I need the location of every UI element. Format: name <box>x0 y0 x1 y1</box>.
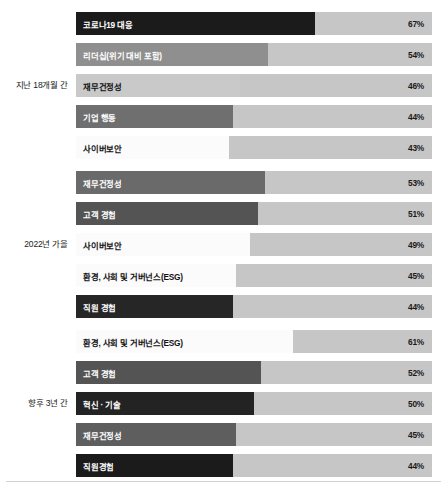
group-bars: 재무건정성53%고객 경험51%사이버보안49%환경, 사회 및 거버넌스(ES… <box>76 171 432 318</box>
bar-value-label: 45% <box>408 423 424 446</box>
bar-row[interactable]: 고객 경험51% <box>76 202 432 225</box>
bar-value-label: 52% <box>408 361 424 384</box>
bar-value-label: 44% <box>408 295 424 318</box>
bar-category-label: 직원경험 <box>83 454 114 477</box>
bar-category-label: 기업 행동 <box>83 105 116 128</box>
bar-category-label: 혁신 · 기술 <box>83 392 121 415</box>
group-bars: 환경, 사회 및 거버넌스(ESG)61%고객 경험52%혁신 · 기술50%재… <box>76 330 432 477</box>
bar-row[interactable]: 직원경험44% <box>76 454 432 477</box>
group-bars: 코로나19 대응67%리더십(위기 대비 포함)54%재무건정성46%기업 행동… <box>76 12 432 159</box>
bar-category-label: 재무건정성 <box>83 171 122 194</box>
bar-category-label: 고객 경험 <box>83 361 116 384</box>
footer-divider <box>6 481 441 482</box>
group-label: 2022년 가을 <box>0 240 68 249</box>
bar-value-label: 50% <box>408 392 424 415</box>
bar-row[interactable]: 고객 경험52% <box>76 361 432 384</box>
bar-value-label: 43% <box>408 136 424 159</box>
bar-row[interactable]: 기업 행동44% <box>76 105 432 128</box>
bar-category-label: 사이버보안 <box>83 233 122 256</box>
bar-row[interactable]: 환경, 사회 및 거버넌스(ESG)45% <box>76 264 432 287</box>
chart-group: 지난 18개월 간코로나19 대응67%리더십(위기 대비 포함)54%재무건정… <box>0 12 447 159</box>
bar-value-label: 49% <box>408 233 424 256</box>
bar-row[interactable]: 혁신 · 기술50% <box>76 392 432 415</box>
bar-category-label: 리더십(위기 대비 포함) <box>83 43 162 66</box>
bar-value-label: 44% <box>408 454 424 477</box>
bar-value-label: 46% <box>408 74 424 97</box>
bar-row[interactable]: 재무건정성45% <box>76 423 432 446</box>
bar-row[interactable]: 리더십(위기 대비 포함)54% <box>76 43 432 66</box>
bar-category-label: 사이버보안 <box>83 136 122 159</box>
group-label: 지난 18개월 간 <box>0 81 68 90</box>
bar-value-label: 53% <box>408 171 424 194</box>
bar-value-label: 44% <box>408 105 424 128</box>
bar-value-label: 61% <box>408 330 424 353</box>
bar-value-label: 45% <box>408 264 424 287</box>
bar-category-label: 재무건정성 <box>83 423 122 446</box>
bar-row[interactable]: 사이버보안43% <box>76 136 432 159</box>
bar-category-label: 재무건정성 <box>83 74 122 97</box>
bar-row[interactable]: 환경, 사회 및 거버넌스(ESG)61% <box>76 330 432 353</box>
bar-chart: 지난 18개월 간코로나19 대응67%리더십(위기 대비 포함)54%재무건정… <box>0 0 447 490</box>
group-label: 향후 3년 간 <box>0 399 68 408</box>
bar-row[interactable]: 사이버보안49% <box>76 233 432 256</box>
chart-group: 2022년 가을재무건정성53%고객 경험51%사이버보안49%환경, 사회 및… <box>0 171 447 318</box>
bar-category-label: 고객 경험 <box>83 202 116 225</box>
bar-value-label: 67% <box>408 12 424 35</box>
bar-category-label: 코로나19 대응 <box>83 12 133 35</box>
chart-groups: 지난 18개월 간코로나19 대응67%리더십(위기 대비 포함)54%재무건정… <box>0 12 447 477</box>
bar-row[interactable]: 직원 경험44% <box>76 295 432 318</box>
bar-row[interactable]: 재무건정성46% <box>76 74 432 97</box>
bar-category-label: 환경, 사회 및 거버넌스(ESG) <box>83 330 183 353</box>
bar-value-label: 54% <box>408 43 424 66</box>
bar-row[interactable]: 재무건정성53% <box>76 171 432 194</box>
chart-group: 향후 3년 간환경, 사회 및 거버넌스(ESG)61%고객 경험52%혁신 ·… <box>0 330 447 477</box>
bar-value-label: 51% <box>408 202 424 225</box>
bar-category-label: 환경, 사회 및 거버넌스(ESG) <box>83 264 183 287</box>
bar-category-label: 직원 경험 <box>83 295 116 318</box>
bar-row[interactable]: 코로나19 대응67% <box>76 12 432 35</box>
